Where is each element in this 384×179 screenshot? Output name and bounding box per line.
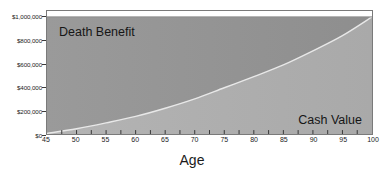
x-tick-label: 80 [250, 136, 258, 143]
series-label-cash-value: Cash Value [298, 113, 362, 127]
x-tick-label: 90 [310, 136, 318, 143]
x-tick-label: 60 [131, 136, 139, 143]
x-tick-label: 75 [220, 136, 228, 143]
x-axis-title: Age [0, 152, 384, 168]
tick-marks [62, 130, 357, 134]
series-label-death-benefit: Death Benefit [59, 25, 135, 39]
y-axis: $0$200,000$400,000$600,000$800,000$1,000… [0, 0, 45, 145]
y-tick-label: $800,000 [17, 36, 42, 43]
x-tick-label: 95 [339, 136, 347, 143]
x-tick-label: 55 [102, 136, 110, 143]
x-tick-label: 70 [191, 136, 199, 143]
x-tick-label: 50 [72, 136, 80, 143]
y-tick-label: $600,000 [17, 60, 42, 67]
x-tick-label: 65 [161, 136, 169, 143]
x-axis: 4550556065707580859095100 [0, 136, 384, 150]
chart-container: $0$200,000$400,000$600,000$800,000$1,000… [0, 0, 384, 179]
y-tick-label: $200,000 [17, 108, 42, 115]
y-tick-label: $1,000,000 [12, 13, 42, 20]
x-tick-label: 85 [280, 136, 288, 143]
x-tick-label: 100 [367, 136, 379, 143]
plot-area: Death Benefit Cash Value [46, 10, 373, 135]
y-tick-label: $400,000 [17, 84, 42, 91]
x-tick-label: 45 [42, 136, 50, 143]
